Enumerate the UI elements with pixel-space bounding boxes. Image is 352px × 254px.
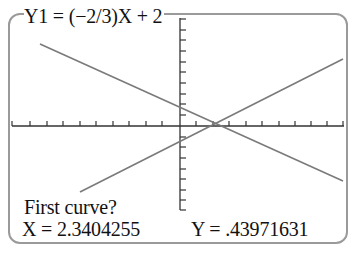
intersect-prompt: First curve? [24, 197, 117, 217]
x-coordinate-readout: X = 2.3404255 [22, 219, 140, 239]
x-axis-ticks [12, 121, 343, 126]
function-line-y1 [40, 44, 343, 181]
y-coordinate-readout: Y = .43971631 [191, 219, 308, 239]
equation-label: Y1 = (−2/3)X + 2 [24, 6, 164, 26]
y-axis-ticks [180, 19, 186, 210]
